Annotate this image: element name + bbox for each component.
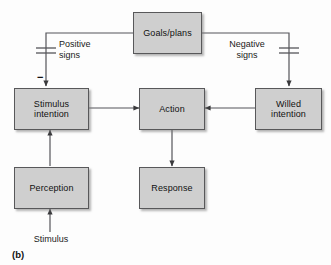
node-willed-intention-label: Willed intention: [269, 99, 308, 120]
node-goals-plans[interactable]: Goals/plans: [133, 12, 202, 54]
minus-sign-label: −: [37, 72, 43, 83]
node-action-label: Action: [157, 104, 187, 115]
node-response[interactable]: Response: [139, 167, 205, 209]
panel-caption: (b): [12, 249, 24, 260]
figure-panel-b: Goals/plans Stimulus intention Action Wi…: [0, 0, 331, 265]
node-stimulus-intention-label: Stimulus intention: [32, 99, 71, 120]
node-perception-label: Perception: [27, 183, 75, 194]
edge-label-positive-signs: Positive signs: [59, 39, 111, 60]
node-willed-intention[interactable]: Willed intention: [255, 88, 322, 130]
edge-label-negative-signs: Negative signs: [219, 39, 275, 60]
label-stimulus-input: Stimulus: [20, 234, 82, 245]
node-action[interactable]: Action: [139, 88, 205, 130]
node-goals-plans-label: Goals/plans: [141, 28, 194, 39]
node-stimulus-intention[interactable]: Stimulus intention: [14, 88, 89, 130]
node-response-label: Response: [149, 183, 194, 194]
node-perception[interactable]: Perception: [14, 167, 89, 209]
